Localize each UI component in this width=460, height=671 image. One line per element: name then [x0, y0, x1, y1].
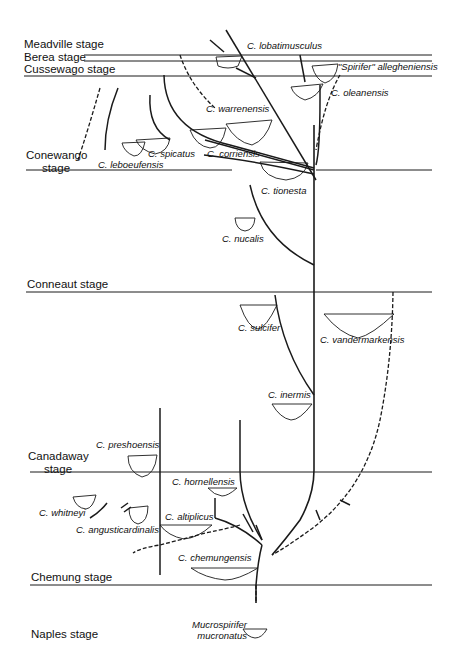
stage-label-cussewago: Cussewago stage [24, 63, 115, 76]
species-label-spicatus: C. spicatus [148, 148, 195, 159]
stage-label-conewango-line2: stage [26, 162, 86, 175]
species-label-oleanensis: C. oleanensis [331, 87, 389, 98]
shell-angusticardinalis [129, 506, 148, 524]
species-label-corriensis: C. corriensis [207, 148, 260, 159]
phylogeny-diagram: Meadville stage Berea stage Cussewago st… [0, 0, 460, 671]
stage-label-conewango-line1: Conewango [26, 149, 86, 162]
species-label-allegheniensis: "Spirifer" allegheniensis [338, 61, 438, 72]
stage-label-canadaway-line2: stage [28, 463, 88, 476]
species-label-mucronatus-line1: Mucrospirifer [173, 619, 247, 630]
stage-label-chemung: Chemung stage [31, 571, 112, 584]
shell-warrenensis [226, 120, 272, 145]
shell-leboeufensis [122, 142, 145, 156]
species-label-mucronatus-line2: mucronatus [173, 630, 247, 641]
dashed-lineages [78, 55, 393, 603]
shell-nucalis [235, 218, 255, 231]
species-label-mucronatus: Mucrospirifer mucronatus [173, 619, 247, 641]
species-label-tionesta: C. tionesta [261, 185, 306, 196]
shell-allegheniensis [312, 64, 338, 83]
stage-label-canadaway: Canadaway stage [28, 450, 88, 476]
stage-label-meadville: Meadville stage [24, 38, 104, 51]
species-label-inermis: C. inermis [268, 389, 311, 400]
shell-chemungensis [191, 568, 258, 580]
species-label-nucalis: C. nucalis [222, 233, 264, 244]
stage-label-canadaway-line1: Canadaway [28, 450, 88, 463]
species-label-angusticardinalis: C. angusticardinalis [76, 524, 159, 535]
species-label-whitneyi: C. whitneyi [39, 507, 85, 518]
species-label-leboeufensis: C. leboeufensis [98, 159, 163, 170]
stage-boundaries [24, 55, 432, 585]
shell-lobatimusculus [216, 56, 242, 68]
shell-altiplicus [160, 525, 212, 539]
species-label-preshoensis: C. preshoensis [96, 439, 159, 450]
species-label-warrenensis: C. warrenensis [206, 103, 269, 114]
species-label-sulcifer: C. sulcifer [238, 322, 280, 333]
shell-oleanensis [291, 84, 323, 100]
species-label-lobatimusculus: C. lobatimusculus [247, 40, 322, 51]
species-label-chemungensis: C. chemungensis [178, 552, 251, 563]
stage-label-conewango: Conewango stage [26, 149, 86, 175]
shell-inermis [272, 404, 312, 420]
species-label-hornellensis: C. hornellensis [172, 476, 235, 487]
species-label-vandermarkensis: C. vandermarkensis [320, 334, 404, 345]
stage-label-conneaut: Conneaut stage [27, 278, 108, 291]
shell-outlines [73, 56, 394, 638]
species-label-altiplicus: C. altiplicus [165, 511, 214, 522]
main-trunk [256, 125, 314, 603]
stage-label-naples: Naples stage [31, 628, 98, 641]
shell-hornellensis [208, 488, 237, 496]
shell-preshoensis [128, 455, 157, 477]
